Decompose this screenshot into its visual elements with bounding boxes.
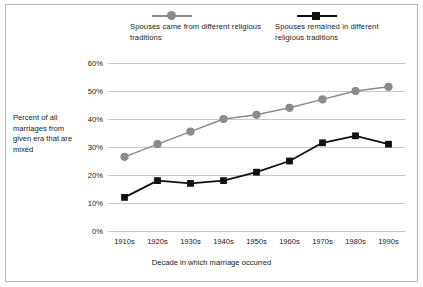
x-axis-tick-label: 1980s (345, 237, 366, 246)
legend-entry-spouses-remained: Spouses remained in different religious … (275, 10, 408, 50)
circle-marker-icon (285, 104, 293, 112)
circle-marker-icon (318, 95, 326, 103)
x-axis-tick-label: 1940s (213, 237, 234, 246)
x-axis-tick-label: 1990s (378, 237, 399, 246)
chart-figure: Spouses came from different religious tr… (0, 0, 423, 287)
y-axis-tick-label: 50% (88, 87, 103, 96)
x-axis-tick-label: 1970s (312, 237, 333, 246)
legend-label-spouses-came: Spouses came from different religious tr… (130, 22, 263, 43)
square-marker-icon (154, 177, 161, 184)
gridline (108, 231, 405, 232)
circle-marker-icon (167, 11, 176, 20)
x-axis-title: Decade in which marriage occurred (0, 258, 423, 267)
series-layer (108, 63, 405, 231)
y-axis-tick-label: 0% (92, 227, 103, 236)
square-marker-icon (312, 12, 320, 20)
x-axis-tick-label: 1950s (246, 237, 267, 246)
y-axis-title: Percent of all marriages from given era … (13, 113, 81, 155)
circle-marker-icon (219, 115, 227, 123)
y-axis-tick-label: 10% (88, 199, 103, 208)
y-axis-tick-label: 60% (88, 59, 103, 68)
series-line (125, 136, 389, 198)
x-axis-tick-label: 1930s (180, 237, 201, 246)
square-marker-icon (352, 132, 359, 139)
y-axis-tick-label: 20% (88, 171, 103, 180)
legend-marker-square (297, 10, 337, 21)
legend-label-spouses-remained: Spouses remained in different religious … (275, 22, 408, 43)
circle-marker-icon (120, 153, 128, 161)
x-axis-tick-label: 1910s (114, 237, 135, 246)
square-marker-icon (220, 177, 227, 184)
square-marker-icon (187, 180, 194, 187)
x-axis-tick-label: 1920s (147, 237, 168, 246)
square-marker-icon (253, 169, 260, 176)
square-marker-icon (121, 194, 128, 201)
legend-entry-spouses-came: Spouses came from different religious tr… (130, 10, 263, 50)
circle-marker-icon (252, 111, 260, 119)
x-axis-tick-label: 1960s (279, 237, 300, 246)
square-marker-icon (385, 141, 392, 148)
circle-marker-icon (186, 128, 194, 136)
square-marker-icon (319, 139, 326, 146)
legend-marker-circle (152, 10, 192, 21)
chart-legend: Spouses came from different religious tr… (130, 10, 415, 50)
y-axis-tick-label: 40% (88, 115, 103, 124)
circle-marker-icon (351, 87, 359, 95)
square-marker-icon (286, 158, 293, 165)
plot-area: 0%10%20%30%40%50%60%1910s1920s1930s1940s… (108, 63, 405, 231)
circle-marker-icon (384, 83, 392, 91)
y-axis-tick-label: 30% (88, 143, 103, 152)
circle-marker-icon (153, 140, 161, 148)
series-line (125, 87, 389, 157)
